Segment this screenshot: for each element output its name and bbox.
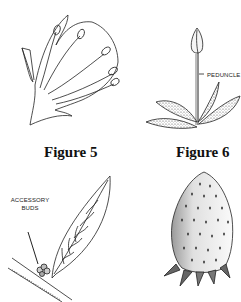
- figure-5-flower-illustration: [0, 0, 120, 140]
- bud-peduncle-drawing: [120, 0, 241, 140]
- accessory-buds-label: ACCESSORY BUDS: [8, 196, 52, 212]
- flower-stamen-drawing: [0, 0, 120, 140]
- figure-8-strawberry-illustration: [120, 160, 241, 302]
- figure-6-caption: Figure 6: [176, 144, 229, 161]
- figure-5-caption: Figure 5: [44, 144, 97, 161]
- leaf-stem-drawing: [0, 160, 120, 302]
- accessory-label-line1: ACCESSORY: [8, 196, 52, 204]
- figure-7-accessory-buds-illustration: [0, 160, 120, 302]
- figure-6-peduncle-illustration: [120, 0, 241, 140]
- buds-label-line2: BUDS: [8, 204, 52, 212]
- peduncle-label: PEDUNCLE: [207, 71, 240, 79]
- strawberry-drawing: [120, 160, 241, 302]
